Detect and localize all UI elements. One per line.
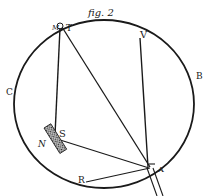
label-V: V xyxy=(139,29,148,40)
label-T: T xyxy=(66,23,72,33)
label-M-top: M xyxy=(51,24,60,32)
label-R: R xyxy=(78,175,85,185)
line-T-A xyxy=(62,27,150,167)
line-T-S xyxy=(55,28,60,135)
label-C: C xyxy=(6,87,13,97)
label-B: B xyxy=(196,71,203,81)
diagram: fig. 2 C B V M T S N R A xyxy=(0,0,208,196)
label-S: S xyxy=(59,128,66,139)
label-A: A xyxy=(157,165,164,174)
outer-circle xyxy=(14,20,194,188)
line-V-A xyxy=(140,38,148,167)
label-N: N xyxy=(37,139,47,149)
figure-caption: fig. 2 xyxy=(87,7,114,18)
